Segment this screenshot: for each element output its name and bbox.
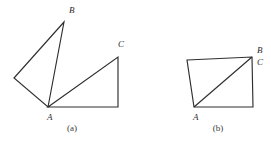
panel-b: B C A (b) — [187, 45, 264, 133]
geometry-figure-svg: B C A (a) B C A (b) — [0, 0, 271, 147]
diagonal-a-to-b — [194, 57, 252, 107]
caption-panel-b: (b) — [213, 123, 224, 133]
vertex-label-c-panel-b: C — [257, 57, 264, 67]
left-triangle-ab — [14, 22, 64, 107]
figure-canvas: B C A (a) B C A (b) — [0, 0, 271, 147]
right-triangle-ac — [48, 57, 118, 107]
panel-a: B C A (a) — [14, 5, 125, 133]
vertex-label-c-panel-a: C — [118, 39, 125, 49]
vertex-label-a-panel-b: A — [192, 112, 199, 122]
vertex-label-a-panel-a: A — [46, 112, 53, 122]
caption-panel-a: (a) — [67, 123, 77, 133]
vertex-label-b-panel-b: B — [257, 45, 263, 55]
vertex-label-b-panel-a: B — [69, 5, 75, 15]
